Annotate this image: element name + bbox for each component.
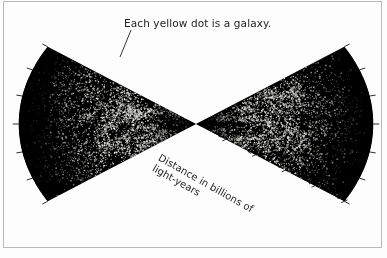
galaxy-caption: Each yellow dot is a galaxy. <box>124 17 271 29</box>
galaxy-wedge-plot-canvas <box>0 0 387 258</box>
galaxy-survey-figure: Each yellow dot is a galaxy. Distance in… <box>0 0 387 258</box>
